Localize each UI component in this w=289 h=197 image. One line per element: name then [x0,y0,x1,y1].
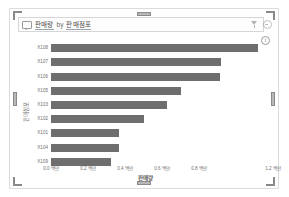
resize-handle-top-left[interactable] [13,11,22,20]
bar-row[interactable]: X103 [29,98,270,112]
resize-handle-top-right[interactable] [266,11,275,20]
bar-category-label: X105 [29,88,48,94]
bar-category-label: X102 [29,116,48,122]
x-axis-tick-label: 0.8 백만 [191,165,207,171]
bar-row[interactable]: X101 [29,126,270,140]
visual-title-dimension: 판매점포 [66,20,91,30]
bar-category-label: X109 [29,159,48,165]
bar-category-label: X103 [29,102,48,108]
chart-visual-container[interactable]: 판매량 by 판매점포 i 판매점포 X108X107X106X105X103X… [9,8,279,189]
bar[interactable] [51,101,167,109]
x-axis-tick-label: 1.2 백만 [265,165,281,171]
plot-area: 판매점포 X108X107X106X105X103X102X101X104X10… [18,39,272,184]
bar-chart-icon [22,21,32,29]
bar-row[interactable]: X108 [29,41,270,55]
bar-category-label: X106 [29,74,48,80]
bars-container: X108X107X106X105X103X102X101X104X109 [29,41,270,162]
bar[interactable] [51,129,119,137]
resize-handle-bottom-right[interactable] [266,177,275,186]
bar[interactable] [51,73,220,81]
resize-handle-bottom-left[interactable] [13,177,22,186]
bar[interactable] [51,144,119,152]
bar-category-label: X107 [29,59,48,65]
x-axis-tick-label: 0.2 백만 [80,165,96,171]
visual-title-bar[interactable]: 판매량 by 판매점포 [18,17,264,32]
x-axis-tick-label: 0.0 백만 [43,165,59,171]
bar[interactable] [51,58,221,66]
bar-row[interactable]: X102 [29,112,270,126]
x-axis-tick-label: 0.6 백만 [154,165,170,171]
resize-handle-right[interactable] [271,92,275,106]
bar[interactable] [51,115,144,123]
bar-row[interactable]: X104 [29,141,270,155]
bar-row[interactable]: X106 [29,69,270,83]
resize-handle-bottom[interactable] [137,181,151,185]
bar[interactable] [51,44,258,52]
filter-icon[interactable] [251,21,258,28]
visual-title-measure: 판매량 [35,20,54,30]
visual-title-by: by [57,21,64,28]
more-options-icon[interactable] [263,20,272,29]
resize-handle-left[interactable] [13,92,17,106]
bar[interactable] [51,87,181,95]
bar-row[interactable]: X107 [29,55,270,69]
resize-handle-top[interactable] [137,12,151,16]
bar-row[interactable]: X105 [29,84,270,98]
x-axis-tick-label: 0.4 백만 [117,165,133,171]
bar-category-label: X104 [29,145,48,151]
bar-category-label: X101 [29,130,48,136]
x-axis-ticks: 0.0 백만0.2 백만0.4 백만0.6 백만0.8 백만1.2 백만 [51,165,270,173]
bar-category-label: X108 [29,45,48,51]
